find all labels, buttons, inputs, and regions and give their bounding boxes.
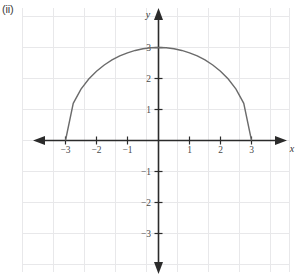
x-tick-label-2: 2: [218, 145, 223, 155]
y-tick-label-2: 2: [146, 74, 151, 84]
x-tick-label-neg3: −3: [60, 145, 70, 155]
x-tick-label-neg2: −2: [91, 145, 101, 155]
y-axis-bottom-arrow: [154, 262, 163, 274]
x-axis: [33, 136, 287, 145]
y-tick-label-neg3: −3: [141, 229, 151, 239]
x-axis-label: x: [289, 143, 295, 154]
y-tick-label-1: 1: [146, 105, 151, 115]
y-tick-label-neg2: −2: [141, 198, 151, 208]
x-tick-label-1: 1: [187, 145, 192, 155]
x-axis-right-arrow: [275, 136, 287, 145]
figure-container: (ii): [0, 0, 301, 278]
x-tick-label-3: 3: [249, 145, 254, 155]
y-tick-label-neg1: −1: [141, 167, 151, 177]
x-tick-label-neg1: −1: [122, 145, 132, 155]
x-axis-left-arrow: [33, 136, 45, 145]
y-axis-label: y: [145, 9, 151, 20]
coordinate-plane-plot: −3 −2 −1 1 2 3 3 2 1 −1 −2 −3 x y: [0, 0, 301, 278]
y-axis-top-arrow: [154, 8, 163, 20]
